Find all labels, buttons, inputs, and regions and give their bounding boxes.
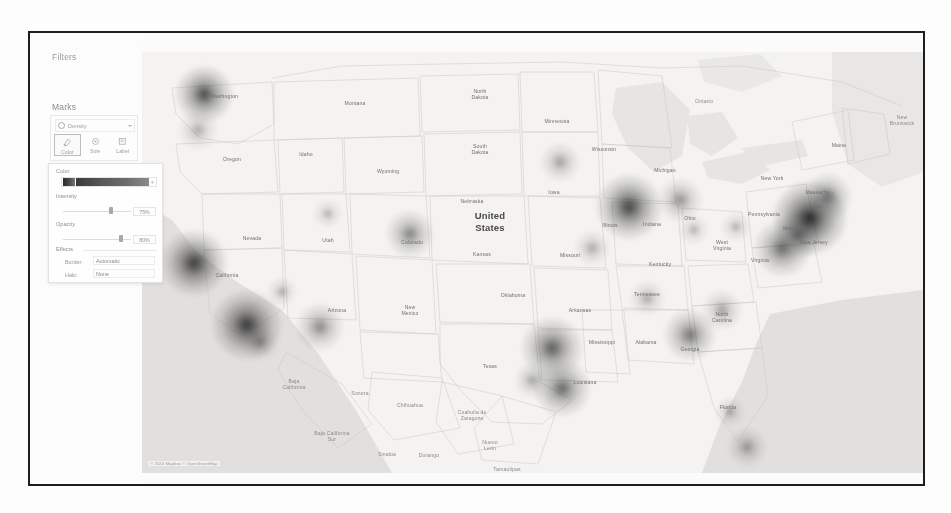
marks-shelf-buttons: Color Size bbox=[54, 134, 136, 156]
color-section-label: Color bbox=[56, 168, 69, 174]
marks-size-button[interactable]: Size bbox=[82, 134, 109, 156]
intensity-label: Intensity bbox=[56, 193, 77, 199]
chevron-down-icon bbox=[128, 125, 132, 127]
palette-name: Density Multi-color Light bbox=[76, 178, 149, 186]
map-canvas[interactable]: WashingtonMontanaNorthDakotaMinnesotaOre… bbox=[142, 52, 923, 473]
size-circle-icon bbox=[82, 136, 109, 147]
halo-dropdown[interactable]: None bbox=[93, 269, 155, 278]
marks-size-label: Size bbox=[82, 148, 109, 154]
color-options-popup: Color Density Multi-color Light ▾ Intens… bbox=[48, 163, 163, 283]
mark-type-dropdown[interactable]: Density bbox=[55, 119, 135, 132]
density-icon bbox=[58, 122, 65, 129]
intensity-value[interactable]: 75% bbox=[133, 207, 156, 216]
intensity-slider-track[interactable] bbox=[63, 211, 131, 212]
border-dropdown[interactable]: Automatic bbox=[93, 256, 155, 265]
map-attribution: © 2024 Mapbox © OpenStreetMap bbox=[148, 461, 220, 466]
halo-label: Halo: bbox=[65, 272, 78, 278]
opacity-label: Opacity bbox=[56, 221, 75, 227]
mark-type-label: Density bbox=[68, 123, 125, 129]
marks-color-button[interactable]: Color bbox=[54, 134, 81, 156]
filters-shelf-title: Filters bbox=[52, 52, 77, 62]
marks-color-label: Color bbox=[55, 149, 80, 155]
color-palette-dropdown[interactable]: Density Multi-color Light ▾ bbox=[61, 177, 157, 187]
opacity-value[interactable]: 80% bbox=[133, 235, 156, 244]
effects-label: Effects bbox=[56, 246, 73, 252]
border-label: Border: bbox=[65, 259, 83, 265]
opacity-slider-thumb[interactable] bbox=[119, 235, 123, 242]
map-basemap bbox=[142, 52, 923, 473]
marks-label-button[interactable]: Label bbox=[109, 134, 136, 156]
marks-card: Density Color bbox=[50, 115, 138, 161]
chevron-down-icon: ▾ bbox=[149, 180, 156, 185]
marks-label-label: Label bbox=[109, 148, 136, 154]
label-tag-icon bbox=[109, 136, 136, 147]
color-palette-icon bbox=[55, 137, 80, 148]
effects-divider bbox=[83, 250, 157, 251]
marks-card-title: Marks bbox=[52, 102, 76, 112]
application-window: Filters Marks Density Color bbox=[0, 0, 951, 513]
intensity-slider-thumb[interactable] bbox=[109, 207, 113, 214]
palette-swatch bbox=[63, 178, 75, 186]
